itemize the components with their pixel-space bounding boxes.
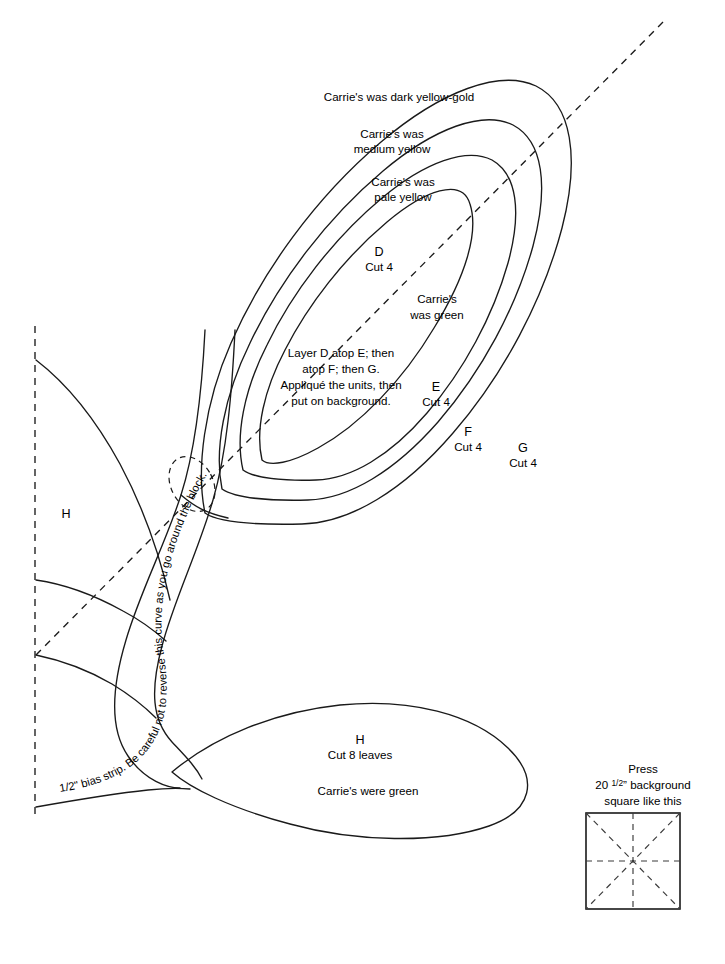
petal-g-cut: Cut 4 — [509, 456, 537, 469]
legend-line3: square like this — [604, 794, 682, 807]
leaf-h-letter: H — [355, 733, 364, 747]
instruction-line1: Layer D atop E; then — [288, 346, 394, 359]
petal-d-note-line1: Carrie's — [417, 292, 457, 305]
petal-e-cut: Cut 4 — [422, 395, 450, 408]
petal-f-note-line2: medium yellow — [354, 142, 431, 155]
petal-d-note-line2: was green — [409, 308, 464, 321]
legend-line1: Press — [628, 762, 658, 775]
legend-line2-fraction: 1/2 — [611, 778, 623, 788]
petal-d-letter: D — [374, 245, 383, 259]
background-leaf-upper-edge — [36, 360, 170, 600]
leaf-h-outline — [172, 703, 528, 838]
petal-e-note-line1: Carrie's was — [371, 175, 435, 188]
leaf-h-cut: Cut 8 leaves — [328, 748, 393, 761]
background-leaf-bottom-edge — [36, 788, 190, 807]
petal-f-note-line1: Carrie's was — [360, 127, 424, 140]
petal-g-letter: G — [518, 441, 528, 455]
petal-d-outline — [260, 189, 473, 463]
legend-line2: 20 1/2” background — [595, 778, 690, 791]
stem-label-textpath: 1/2" bias strip. Be careful not to rever… — [58, 470, 208, 794]
diagonal-fold-line — [36, 22, 663, 655]
legend-line2-prefix: 20 — [595, 778, 611, 791]
petal-d-cut: Cut 4 — [365, 260, 393, 273]
leaf-h-note: Carrie's were green — [318, 784, 419, 797]
stem-label: 1/2" bias strip. Be careful not to rever… — [58, 470, 208, 794]
petal-g-note: Carrie's was dark yellow-gold — [324, 90, 474, 103]
petal-e-note-line2: pale yellow — [374, 190, 432, 203]
background-leaf-letter: H — [61, 507, 70, 521]
instruction-line2: atop F; then G. — [302, 362, 379, 375]
legend-line2-suffix: ” background — [623, 778, 691, 791]
pattern-sheet: Carrie's was dark yellow-gold Carrie's w… — [0, 0, 725, 964]
petal-e-outline — [240, 155, 516, 480]
instruction-line3: Appliqué the units, then — [280, 378, 401, 391]
petal-e-letter: E — [432, 380, 440, 394]
petal-f-cut: Cut 4 — [454, 440, 482, 453]
background-leaf-lower-edge — [36, 655, 156, 718]
petal-f-letter: F — [464, 425, 472, 439]
instruction-line4: put on background. — [291, 394, 390, 407]
